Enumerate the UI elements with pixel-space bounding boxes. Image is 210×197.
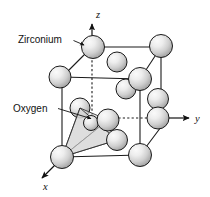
atom-sphere-oxygen [107, 130, 128, 151]
y-axis-label: y [194, 113, 200, 124]
atom-sphere-zirconium [51, 146, 74, 169]
x-axis-line [42, 164, 56, 178]
atom-sphere-zirconium [107, 52, 127, 72]
atom-spheres [49, 35, 173, 169]
atom-sphere-zirconium [49, 66, 71, 88]
unit-cell-diagram: z y x [0, 0, 210, 197]
oxygen-label: Oxygen [13, 103, 47, 114]
atom-sphere-oxygen [97, 109, 119, 131]
x-axis-label: x [42, 181, 48, 192]
atom-sphere-oxygen [84, 116, 99, 131]
atom-sphere-zirconium [129, 68, 152, 91]
atom-sphere-zirconium [150, 35, 173, 58]
z-axis-label: z [95, 9, 100, 20]
zirconium-label: Zirconium [18, 34, 62, 45]
atom-sphere-zirconium [148, 89, 169, 110]
atom-sphere-zirconium [82, 36, 105, 59]
atom-sphere-zirconium [129, 144, 152, 167]
crystal-structure-figure: z y x [0, 0, 210, 197]
atom-sphere-zirconium [147, 107, 169, 129]
